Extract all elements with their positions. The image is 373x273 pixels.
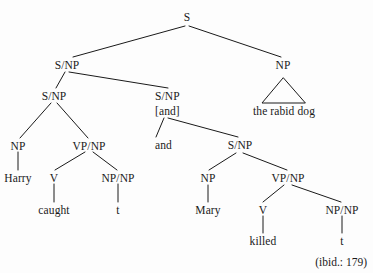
edge-snpand-to-and [156, 118, 164, 137]
triangle-the-rabid-dog [262, 78, 305, 103]
node-snp-and-feature: [and] [155, 106, 180, 118]
node-v-caught: V [50, 173, 58, 185]
node-snp-left-mid: S/NP [42, 91, 67, 103]
node-npnp-trace2: NP/NP [325, 205, 358, 217]
syntax-tree-figure: S S/NP NP S/NP S/NP [and] NP VP/NP and S… [0, 0, 373, 273]
node-v-killed: V [259, 205, 267, 217]
node-vpnp-killed: VP/NP [271, 173, 304, 185]
edge-snpmid-to-vpnp [57, 103, 88, 138]
node-killed: killed [250, 236, 277, 248]
edge-root-to-snp-left [73, 26, 185, 57]
edge-snptop-to-snpand [69, 72, 168, 88]
node-np-right: NP [276, 60, 291, 72]
edge-vpnp-to-v [55, 152, 85, 170]
figure-caption: (ibid.: 179) [315, 257, 367, 269]
edge-snpmid-to-np [20, 103, 51, 138]
node-caught: caught [38, 205, 69, 217]
node-vpnp-caught: VP/NP [72, 141, 105, 153]
node-root-s: S [184, 12, 191, 24]
edge-snpand-to-snpinner [168, 118, 238, 137]
tree-edges [0, 0, 373, 273]
edge-snptop-to-snpmid [56, 72, 65, 88]
edge-vpnp-to-npnp [93, 152, 117, 170]
node-npnp-trace1: NP/NP [101, 173, 134, 185]
node-trace1: t [116, 205, 119, 217]
edge-vpnp2-to-v [263, 185, 284, 202]
edge-vpnp2-to-npnp [292, 185, 341, 202]
node-np-mary: NP [201, 173, 216, 185]
node-np-harry: NP [11, 141, 26, 153]
node-and-word: and [155, 140, 172, 152]
node-trace2: t [340, 236, 343, 248]
edge-snpinner-to-vpnp [243, 153, 287, 170]
node-harry: Harry [4, 173, 31, 185]
node-snp-and: S/NP [155, 91, 180, 103]
node-snp-left-top: S/NP [55, 60, 80, 72]
edge-snpinner-to-np [209, 153, 236, 170]
node-mary: Mary [195, 205, 220, 217]
node-the-rabid-dog: the rabid dog [253, 106, 315, 118]
node-snp-inner: S/NP [228, 140, 253, 152]
edge-root-to-np-right [189, 26, 281, 57]
